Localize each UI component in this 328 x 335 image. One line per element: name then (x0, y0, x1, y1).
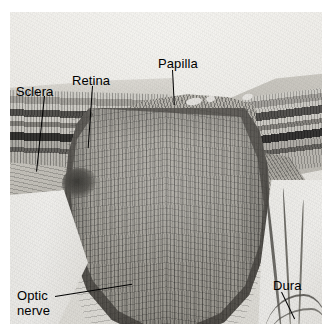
label-optic-nerve: Optic nerve (17, 288, 50, 318)
label-papilla: Papilla (158, 56, 198, 71)
label-sclera: Sclera (16, 84, 53, 99)
figure-optic-nerve-head: Sclera Retina Papilla Optic nerve Dura (0, 0, 328, 335)
label-dura: Dura (273, 278, 302, 293)
